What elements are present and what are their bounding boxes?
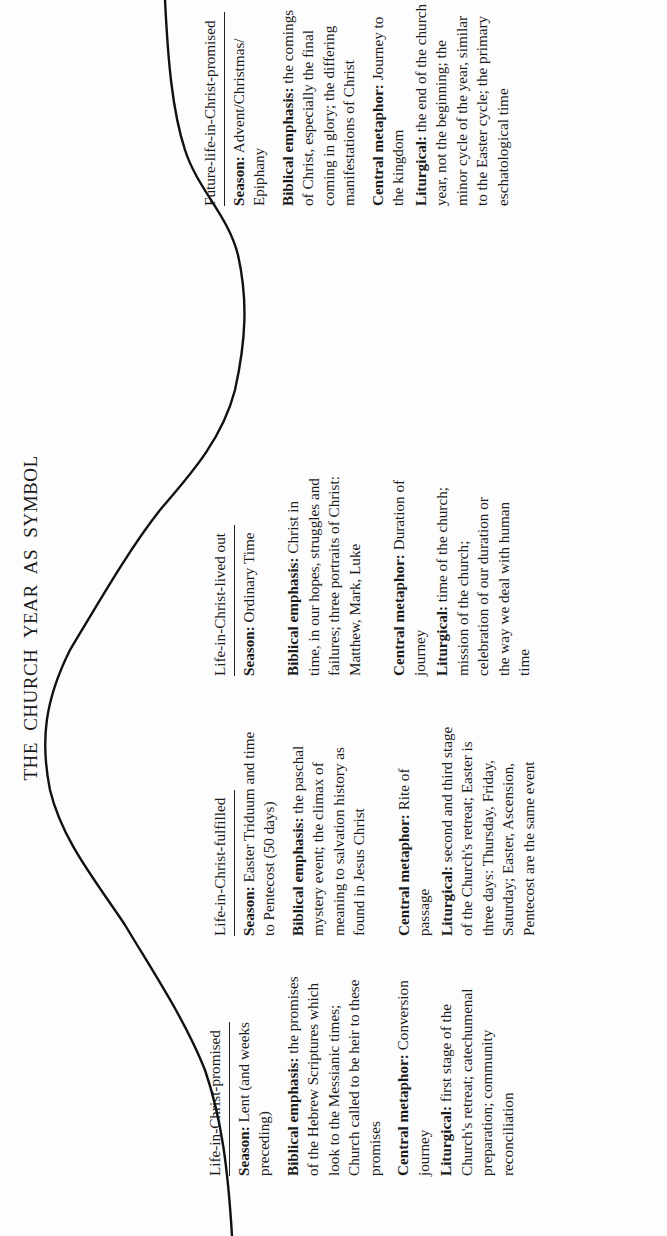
liturgical-label: Liturgical:: [437, 1106, 454, 1176]
page-title: THE CHURCH YEAR AS SYMBOL: [20, 0, 42, 1236]
metaphor-entry: Central metaphor: Duration of journey: [389, 476, 430, 676]
biblical-label: Biblical emphasis:: [289, 817, 306, 936]
column-heading: Life-in-Christ-fulfilled: [210, 790, 235, 936]
metaphor-label: Central metaphor:: [390, 554, 407, 676]
biblical-entry: Biblical emphasis: the paschal mystery e…: [288, 726, 370, 936]
metaphor-entry: Central metaphor: Rite of passage: [394, 726, 435, 936]
column-heading: Life-in-Christ-lived out: [210, 525, 235, 676]
biblical-label: Biblical emphasis:: [284, 1057, 301, 1176]
column-advent: Future-life-in-Christ-promised Season: A…: [200, 1, 521, 206]
season-label: Season:: [230, 156, 247, 206]
biblical-label: Biblical emphasis:: [279, 87, 296, 206]
column-easter: Life-in-Christ-fulfilled Season: Easter …: [210, 726, 547, 936]
metaphor-label: Central metaphor:: [395, 814, 412, 936]
biblical-entry: Biblical emphasis: Christ in time, in ou…: [283, 476, 365, 676]
liturgical-label: Liturgical:: [438, 866, 455, 936]
biblical-label: Biblical emphasis:: [284, 557, 301, 676]
column-heading: Life-in-Christ-promised: [205, 1022, 230, 1176]
season-text: Ordinary Time: [240, 533, 257, 623]
season-entry: Season: Ordinary Time: [239, 476, 260, 676]
biblical-entry: Biblical emphasis: the comings of Christ…: [278, 1, 360, 206]
column-heading: Future-life-in-Christ-promised: [200, 12, 225, 206]
liturgical-entry: Liturgical: first stage of the Church's …: [436, 966, 518, 1176]
season-label: Season:: [240, 626, 257, 676]
liturgical-label: Liturgical:: [412, 136, 429, 206]
liturgical-entry: Liturgical: second and third stage of th…: [437, 726, 540, 936]
biblical-entry: Biblical emphasis: the promises of the H…: [283, 966, 386, 1176]
season-label: Season:: [235, 1126, 252, 1176]
liturgical-entry: Liturgical: time of the church; mission …: [432, 476, 535, 676]
season-entry: Season: Easter Triduum and time to Pente…: [239, 726, 280, 936]
season-entry: Season: Advent/Christmas/ Epiphany: [229, 1, 270, 206]
metaphor-entry: Central metaphor: Journey to the kingdom: [368, 1, 409, 206]
season-entry: Season: Lent (and weeks preceding): [234, 966, 275, 1176]
season-label: Season:: [240, 886, 257, 936]
metaphor-label: Central metaphor:: [394, 1054, 411, 1176]
liturgical-entry: Liturgical: the end of the church year, …: [411, 1, 514, 206]
metaphor-entry: Central metaphor: Conversion journey: [393, 966, 434, 1176]
column-lent: Life-in-Christ-promised Season: Lent (an…: [205, 966, 526, 1176]
rotated-page: THE CHURCH YEAR AS SYMBOL Life-in-Christ…: [0, 0, 667, 1236]
column-ordinary-time: Life-in-Christ-lived out Season: Ordinar…: [210, 476, 543, 676]
metaphor-label: Central metaphor:: [369, 84, 386, 206]
liturgical-label: Liturgical:: [433, 606, 450, 676]
